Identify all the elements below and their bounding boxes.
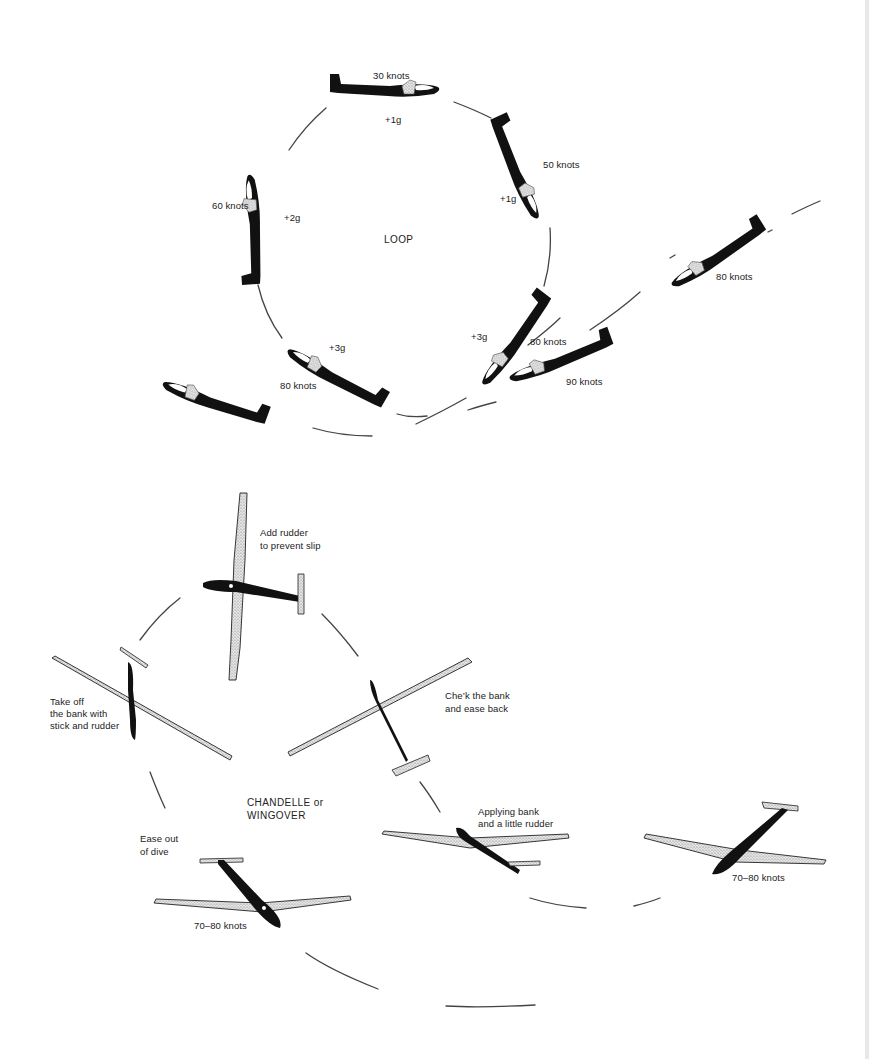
note-ease-out-1: Ease out: [140, 833, 178, 845]
loop-label-60-g: +2g: [284, 212, 300, 224]
loop-label-exit-speed: 80 knots: [716, 271, 753, 283]
note-take-off-3: stick and rudder: [50, 720, 119, 732]
loop-label-top-speed: 30 knots: [373, 70, 410, 82]
glider-chandelle-check: [288, 658, 472, 776]
glider-loop-entry: [160, 369, 270, 428]
loop-label-60-speed: 60 knots: [212, 200, 249, 212]
note-check-bank-1: Che’k the bank: [445, 690, 510, 702]
note-add-rudder-1: Add rudder: [260, 527, 308, 539]
glider-chandelle-right: [644, 802, 826, 874]
loop-label-recovery-speed: 90 knots: [566, 376, 603, 388]
loop-label-pullout-g: +3g: [471, 331, 487, 343]
glider-loop-60: [234, 174, 264, 285]
loop-title: LOOP: [384, 234, 413, 246]
chandelle-exit-speed: 70–80 knots: [194, 920, 247, 932]
chandelle-entry-speed: 70–80 knots: [732, 872, 785, 884]
note-applying-bank-1: Applying bank: [478, 806, 539, 818]
loop-label-pullup-speed: 80 knots: [280, 380, 317, 392]
note-take-off-1: Take off: [50, 696, 84, 708]
chandelle-title-line1: CHANDELLE or: [247, 797, 324, 809]
glider-loop-50: [486, 112, 551, 221]
note-take-off-2: the bank with: [50, 708, 107, 720]
glider-chandelle-applying: [382, 828, 569, 874]
loop-label-pullout-speed: 80 knots: [530, 336, 567, 348]
loop-label-pullup-g: +3g: [329, 342, 345, 354]
loop-label-50-speed: 50 knots: [543, 159, 580, 171]
chandelle-title-line2: WINGOVER: [247, 810, 306, 822]
glider-chandelle-ease-out: [154, 858, 351, 928]
loop-label-top-g: +1g: [385, 114, 401, 126]
glider-chandelle-top: [203, 493, 304, 680]
note-check-bank-2: and ease back: [445, 703, 508, 715]
page-edge: [865, 0, 869, 1059]
loop-label-50-g: +1g: [500, 193, 516, 205]
note-add-rudder-2: to prevent slip: [260, 540, 321, 552]
chandelle-path: [140, 598, 660, 1007]
diagram-canvas: LOOP 30 knots +1g 50 knots +1g 60 knots …: [0, 0, 869, 1059]
note-applying-bank-2: and a little rudder: [478, 818, 553, 830]
note-ease-out-2: of dive: [140, 846, 169, 858]
diagram-svg: [0, 0, 869, 1059]
